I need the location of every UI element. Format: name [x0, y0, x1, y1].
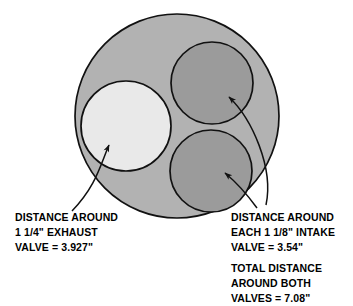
- callout-intake-line-2: EACH 1 1/8" INTAKE: [231, 225, 335, 240]
- callout-exhaust-line-3: VALVE = 3.927": [15, 240, 118, 255]
- callout-total-distance: TOTAL DISTANCE AROUND BOTH VALVES = 7.08…: [231, 261, 322, 306]
- intake-valve-bottom-circle: [170, 130, 252, 212]
- callout-total-line-2: AROUND BOTH: [231, 276, 322, 291]
- intake-valve-top-circle: [171, 42, 253, 124]
- callout-intake-line-3: VALVE = 3.54": [231, 240, 335, 255]
- callout-exhaust-line-1: DISTANCE AROUND: [15, 210, 118, 225]
- callout-exhaust-line-2: 1 1/4" EXHAUST: [15, 225, 118, 240]
- exhaust-valve-circle: [81, 81, 171, 171]
- callout-intake-line-1: DISTANCE AROUND: [231, 210, 335, 225]
- callout-intake-valve: DISTANCE AROUND EACH 1 1/8" INTAKE VALVE…: [231, 210, 335, 255]
- callout-total-line-3: VALVES = 7.08": [231, 291, 322, 306]
- callout-exhaust-valve: DISTANCE AROUND 1 1/4" EXHAUST VALVE = 3…: [15, 210, 118, 255]
- valve-diagram: DISTANCE AROUND 1 1/4" EXHAUST VALVE = 3…: [0, 0, 353, 306]
- callout-total-line-1: TOTAL DISTANCE: [231, 261, 322, 276]
